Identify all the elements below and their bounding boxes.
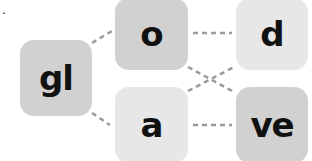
link-a-d bbox=[188, 67, 234, 91]
tile-a-text: a bbox=[141, 105, 163, 145]
link-gl-o bbox=[92, 31, 112, 43]
tile-gl: gl bbox=[20, 40, 92, 116]
tile-o: o bbox=[115, 0, 188, 70]
tile-gl-text: gl bbox=[39, 58, 73, 98]
tile-d-text: d bbox=[260, 14, 283, 54]
tile-d: d bbox=[236, 0, 308, 70]
link-o-ve bbox=[188, 67, 234, 92]
link-gl-a bbox=[92, 113, 110, 125]
tile-ve-text: ve bbox=[250, 105, 293, 145]
tile-o-text: o bbox=[140, 14, 162, 54]
tile-ve: ve bbox=[236, 87, 308, 161]
tile-a: a bbox=[115, 87, 188, 161]
